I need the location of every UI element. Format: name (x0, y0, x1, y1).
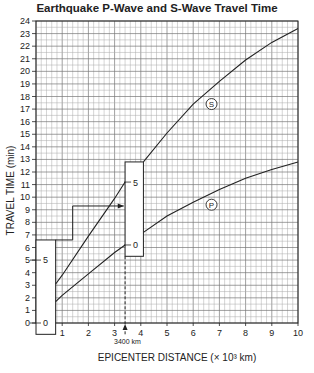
strip-label: 5 (133, 178, 138, 188)
y-tick-label: 1 (25, 305, 30, 315)
y-tick-label: 2 (25, 293, 30, 303)
x-tick-label: 7 (217, 328, 222, 338)
y-tick-label: 15 (20, 129, 30, 139)
wave-label: S (209, 100, 214, 109)
y-tick-label: 23 (20, 29, 30, 39)
x-axis-label: EPICENTER DISTANCE (× 10³ km) (0, 352, 314, 363)
wave-label: P (209, 201, 214, 210)
x-tick-label: 5 (164, 328, 169, 338)
y-tick-label: 8 (25, 217, 30, 227)
strip-label: 5 (43, 255, 48, 265)
y-tick-label: 22 (20, 41, 30, 51)
y-tick-label: 19 (20, 79, 30, 89)
y-tick-label: 20 (20, 66, 30, 76)
y-tick-label: 10 (20, 192, 30, 202)
y-tick-label: 24 (20, 16, 30, 26)
strip-label: 0 (43, 318, 48, 328)
y-tick-label: 12 (20, 167, 30, 177)
up-arrow-icon (123, 324, 128, 330)
y-tick-label: 7 (25, 230, 30, 240)
x-tick-label: 3 (112, 328, 117, 338)
y-tick-label: 17 (20, 104, 30, 114)
y-tick-label: 18 (20, 92, 30, 102)
distance-annotation: 3400 km (114, 338, 141, 345)
y-tick-label: 11 (21, 180, 30, 190)
y-tick-label: 16 (20, 117, 30, 127)
strip-label: 0 (133, 240, 138, 250)
y-tick-label: 4 (25, 268, 30, 278)
y-tick-label: 14 (20, 142, 30, 152)
y-tick-label: 6 (25, 243, 30, 253)
chart-container: Earthquake P-Wave and S-Wave Travel Time… (0, 0, 314, 373)
curve-s-wave (143, 29, 298, 162)
x-tick-label: 4 (138, 328, 143, 338)
x-tick-label: 8 (243, 328, 248, 338)
y-tick-label: 5 (25, 255, 30, 265)
y-tick-label: 13 (20, 154, 30, 164)
y-tick-label: 3 (25, 280, 30, 290)
x-tick-label: 2 (86, 328, 91, 338)
y-tick-label: 0 (25, 318, 30, 328)
x-tick-label: 6 (191, 328, 196, 338)
y-tick-label: 9 (25, 205, 30, 215)
y-axis-label: TRAVEL TIME (min) (5, 121, 16, 261)
x-tick-label: 9 (269, 328, 274, 338)
chart-plot: 0123456789101112131415161718192021222324… (0, 0, 314, 373)
y-tick-label: 21 (20, 54, 30, 64)
x-tick-label: 1 (60, 328, 65, 338)
x-tick-label: 10 (293, 328, 303, 338)
arrow-head-icon (118, 203, 124, 208)
